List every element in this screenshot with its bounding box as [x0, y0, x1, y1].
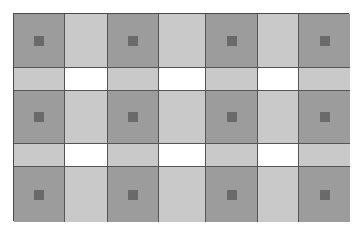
grid-cell-white: [65, 144, 108, 167]
grid-cell-light: [206, 68, 258, 91]
grid-cell-light: [108, 68, 159, 91]
square-marker-icon: [320, 36, 330, 46]
grid-cell-light: [159, 14, 206, 68]
grid-cell-dark: [14, 167, 65, 222]
grid-cell-light: [299, 144, 350, 167]
grid-cell-light: [14, 144, 65, 167]
grid-cell-dark: [108, 167, 159, 222]
grid-cell-white: [258, 68, 299, 91]
square-marker-icon: [227, 36, 237, 46]
grid-cell-light: [258, 91, 299, 144]
square-marker-icon: [128, 36, 138, 46]
grid-cell-light: [159, 167, 206, 222]
grid-cell-light: [65, 91, 108, 144]
grid-cell-dark: [14, 91, 65, 144]
grid-cell-dark: [108, 91, 159, 144]
square-marker-icon: [227, 190, 237, 200]
grid-cell-dark: [206, 167, 258, 222]
grid-cell-light: [299, 68, 350, 91]
grid-cell-white: [159, 68, 206, 91]
grid-cell-white: [258, 144, 299, 167]
grid-cell-light: [65, 167, 108, 222]
grid-cell-light: [108, 144, 159, 167]
grid-cell-dark: [299, 91, 350, 144]
grid-cell-light: [14, 68, 65, 91]
grid-cell-light: [258, 14, 299, 68]
grid-cell-light: [206, 144, 258, 167]
grid-cell-dark: [299, 167, 350, 222]
square-marker-icon: [320, 112, 330, 122]
square-marker-icon: [128, 190, 138, 200]
grid-cell-light: [258, 167, 299, 222]
square-marker-icon: [34, 36, 44, 46]
square-marker-icon: [320, 190, 330, 200]
grid-cell-light: [159, 91, 206, 144]
square-marker-icon: [34, 190, 44, 200]
grid-cell-dark: [299, 14, 350, 68]
square-marker-icon: [227, 112, 237, 122]
grid-cell-dark: [108, 14, 159, 68]
grid-cell-white: [159, 144, 206, 167]
grid-cell-light: [65, 14, 108, 68]
grid-diagram: [13, 13, 349, 221]
square-marker-icon: [34, 112, 44, 122]
grid-cell-white: [65, 68, 108, 91]
grid-cell-dark: [206, 91, 258, 144]
grid-cell-dark: [14, 14, 65, 68]
square-marker-icon: [128, 112, 138, 122]
grid-cell-dark: [206, 14, 258, 68]
